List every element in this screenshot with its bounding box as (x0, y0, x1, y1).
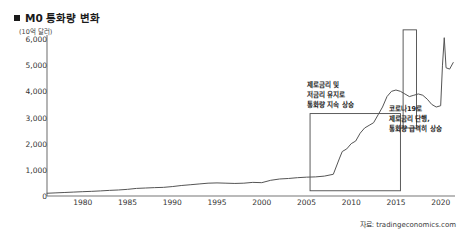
annotation-line: 저금리 유지로 (307, 90, 354, 100)
annotation-line: 코로나19로 (389, 104, 442, 114)
x-tick-label: 2010 (342, 198, 361, 207)
x-tick-label: 1995 (207, 198, 226, 207)
y-tick-label: 3,000 (26, 113, 47, 122)
y-tick-label: 2,000 (26, 139, 47, 148)
x-tick-label: 2005 (297, 198, 316, 207)
y-tick-label: 4,000 (26, 87, 47, 96)
x-tick-label: 1985 (118, 198, 137, 207)
x-tick-label: 1990 (163, 198, 182, 207)
source-label: 자료: tradingeconomics.com (360, 219, 456, 229)
y-tick-label: 5,000 (26, 61, 47, 70)
chart-figure: M0 통화량 변화 (10억 달러) 01,0002,0003,0004,000… (0, 0, 465, 241)
annotation-line: 제로금리 및 (307, 80, 354, 90)
x-tick-label: 2015 (386, 198, 405, 207)
annotation-line: 제로금리 단행, (389, 114, 442, 124)
x-tick-label: 2020 (431, 198, 450, 207)
y-axis-tick-labels: 01,0002,0003,0004,0005,0006,000 (14, 0, 47, 241)
y-tick-label: 0 (42, 192, 47, 201)
x-tick-label: 1980 (73, 198, 92, 207)
zero-rate-box (310, 114, 400, 191)
x-tick-label: 2000 (252, 198, 271, 207)
annotation-line: 통화량 급격히 상승 (389, 124, 442, 134)
y-tick-label: 1,000 (26, 165, 47, 174)
annotation-line: 통화량 지속 상승 (307, 100, 354, 110)
annotation-covid: 코로나19로제로금리 단행,통화량 급격히 상승 (389, 104, 442, 135)
y-tick-label: 6,000 (26, 35, 47, 44)
annotation-zero-rate: 제로금리 및저금리 유지로통화량 지속 상승 (307, 80, 354, 111)
